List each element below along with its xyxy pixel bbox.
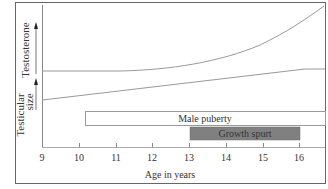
chart-frame bbox=[16, 3, 326, 184]
tick-label: 16 bbox=[294, 152, 304, 163]
male-puberty-label: Male puberty bbox=[178, 113, 232, 124]
puberty-chart: Testosterone Testicular size 9 10 11 12 … bbox=[0, 0, 328, 189]
tick-label: 15 bbox=[258, 152, 268, 163]
tick-label: 14 bbox=[221, 152, 231, 163]
tick-label: 13 bbox=[184, 152, 194, 163]
tick-label: 9 bbox=[40, 152, 45, 163]
x-axis-title: Age in years bbox=[145, 169, 196, 180]
tick-label: 11 bbox=[111, 152, 121, 163]
testicular-size-label-line2: size bbox=[23, 93, 35, 110]
growth-spurt-label: Growth spurt bbox=[218, 128, 271, 139]
testosterone-label: Testosterone bbox=[19, 22, 31, 78]
tick-label: 12 bbox=[147, 152, 157, 163]
tick-label: 10 bbox=[74, 152, 84, 163]
